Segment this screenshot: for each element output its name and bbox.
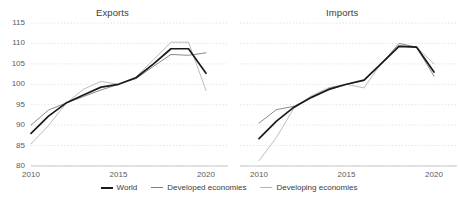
x-tick-label-imports-2010: 2010: [242, 170, 276, 179]
legend-label-world: World: [117, 183, 138, 192]
y-tick-label-105: 105: [3, 59, 25, 68]
y-tick-label-115: 115: [3, 18, 25, 27]
y-tick-label-110: 110: [3, 38, 25, 47]
legend-label-developed-economies: Developed economies: [167, 183, 246, 192]
gridlines-exports: [31, 23, 228, 166]
chart-legend: World Developed economies Developing eco…: [0, 183, 458, 192]
legend-item-world: World: [101, 183, 138, 192]
y-tick-label-95: 95: [3, 100, 25, 109]
legend-line-swatch-developing: [260, 187, 272, 188]
plot-canvas: [0, 0, 458, 206]
legend-item-developed-economies: Developed economies: [151, 183, 246, 192]
panel-title-imports: Imports: [326, 7, 358, 18]
y-tick-label-80: 80: [3, 161, 25, 170]
x-tick-label-imports-2020: 2020: [417, 170, 451, 179]
y-tick-label-85: 85: [3, 141, 25, 150]
y-tick-label-100: 100: [3, 79, 25, 88]
gridlines-imports: [240, 23, 457, 166]
series-line-exports-world: [31, 49, 206, 134]
series-line-imports-world: [259, 46, 434, 138]
x-tick-label-exports-2020: 2020: [189, 170, 223, 179]
panel-title-exports: Exports: [96, 7, 129, 18]
legend-item-developing-economies: Developing economies: [260, 183, 357, 192]
x-tick-label-exports-2015: 2015: [102, 170, 136, 179]
trade-index-chart-figure: Exports Imports 11511010510095908580 201…: [0, 0, 458, 206]
series-lines-imports: [259, 43, 434, 160]
series-line-imports-developed-economies: [259, 43, 434, 123]
series-lines-exports: [31, 42, 206, 144]
series-line-exports-developing-economies: [31, 42, 206, 144]
x-tick-label-imports-2015: 2015: [330, 170, 364, 179]
legend-line-swatch-world: [101, 187, 113, 189]
y-tick-label-90: 90: [3, 120, 25, 129]
x-tick-label-exports-2010: 2010: [14, 170, 48, 179]
legend-label-developing-economies: Developing economies: [276, 183, 357, 192]
series-line-imports-developing-economies: [259, 45, 434, 160]
legend-line-swatch-developed: [151, 187, 163, 188]
